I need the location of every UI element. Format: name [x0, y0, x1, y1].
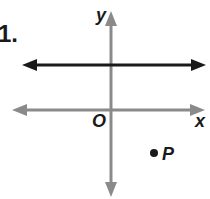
x-axis-label: x	[194, 111, 206, 131]
point-p-label: P	[162, 144, 175, 164]
coordinate-diagram: 1. y O x P	[0, 0, 210, 199]
horizontal-line	[22, 59, 206, 71]
y-axis-down-arrow-icon	[105, 182, 117, 197]
line-left-arrow-icon	[22, 59, 37, 71]
y-axis	[105, 11, 117, 197]
origin-label: O	[92, 111, 106, 131]
x-axis-left-arrow-icon	[12, 104, 27, 116]
problem-number: 1.	[0, 20, 18, 47]
x-axis	[12, 104, 205, 116]
y-axis-label: y	[95, 5, 107, 25]
line-right-arrow-icon	[191, 59, 206, 71]
point-p-dot	[150, 149, 158, 157]
y-axis-up-arrow-icon	[105, 11, 117, 26]
